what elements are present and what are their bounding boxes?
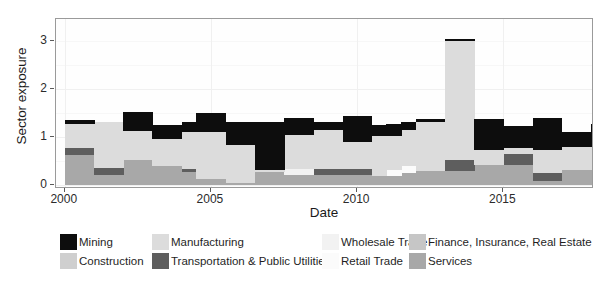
area-segment (313, 169, 328, 175)
area-segment (503, 165, 518, 185)
y-axis-tick-mark (50, 88, 54, 89)
area-segment (343, 169, 358, 175)
area-segment (401, 166, 416, 173)
area-segment (518, 165, 533, 185)
area-segment (343, 175, 358, 186)
area-segment (79, 155, 94, 185)
y-axis-tick-label: 0 (30, 177, 47, 191)
area-segment (460, 171, 475, 185)
area-segment (357, 169, 372, 175)
area-segment (518, 148, 533, 155)
area-segment (152, 166, 167, 185)
area-segment (65, 120, 80, 124)
area-segment (576, 147, 591, 170)
x-axis-tick-mark (210, 188, 211, 192)
area-segment (65, 155, 80, 185)
area-segment (255, 170, 270, 172)
area-segment (474, 150, 489, 164)
area-segment (313, 175, 328, 186)
area-segment (591, 146, 593, 159)
area-segment (474, 165, 489, 185)
area-segment (533, 118, 548, 150)
area-segment (167, 139, 182, 165)
gridline-horizontal-minor (56, 41, 592, 42)
area-segment (343, 142, 358, 168)
area-segment (152, 139, 167, 165)
gridline-horizontal (56, 185, 592, 186)
area-segment (299, 135, 314, 169)
area-segment (109, 168, 124, 175)
area-segment (328, 169, 343, 175)
area-segment (445, 39, 460, 41)
area-segment (123, 160, 138, 185)
area-segment (299, 175, 314, 186)
legend: MiningConstructionManufacturingTransport… (0, 232, 616, 280)
area-segment (460, 39, 475, 41)
area-segment (401, 122, 416, 131)
area-segment (562, 170, 577, 185)
area-segment (474, 119, 489, 150)
gridline-horizontal (56, 89, 592, 90)
legend-item[interactable]: Finance, Insurance, Real Estate (409, 232, 592, 252)
area-segment (65, 124, 80, 148)
area-segment (547, 181, 562, 185)
area-segment (547, 118, 562, 150)
area-segment (79, 124, 94, 148)
area-segment (416, 119, 431, 122)
legend-item[interactable]: Construction (60, 251, 144, 271)
x-axis-tick-label: 2010 (331, 192, 381, 206)
y-axis-tick-label: 1 (30, 129, 47, 143)
legend-item[interactable]: Mining (60, 232, 113, 252)
legend-swatch-icon (60, 234, 77, 250)
sector-exposure-chart: Sector exposure 0123 2000200520102015 Da… (0, 0, 616, 283)
legend-item[interactable]: Transportation & Public Utilities (152, 251, 330, 271)
legend-item[interactable]: Services (409, 251, 472, 271)
x-axis-title: Date (55, 205, 593, 220)
area-segment (533, 181, 548, 185)
area-segment (518, 154, 533, 165)
y-axis-tick-label: 2 (30, 81, 47, 95)
area-segment (65, 148, 80, 155)
area-segment (79, 148, 94, 155)
area-segment (152, 125, 167, 139)
legend-swatch-icon (60, 253, 77, 269)
legend-swatch-icon (409, 253, 426, 269)
legend-label: Services (428, 255, 472, 267)
area-segment (328, 122, 343, 131)
area-segment (386, 136, 401, 170)
x-axis-tick-mark (64, 188, 65, 192)
area-segment (430, 119, 445, 122)
area-segment (430, 122, 445, 171)
area-segment (357, 175, 372, 186)
area-segment (343, 116, 358, 142)
x-axis-tick-label: 2000 (39, 192, 89, 206)
area-segment (591, 170, 593, 185)
area-segment (138, 112, 153, 131)
area-segment (386, 124, 401, 136)
area-segment (240, 145, 255, 184)
area-segment (123, 131, 138, 160)
legend-item[interactable]: Retail Trade (322, 251, 403, 271)
area-segment (284, 135, 299, 169)
area-segment (445, 160, 460, 171)
y-axis-tick-mark (50, 40, 54, 41)
legend-label: Retail Trade (341, 255, 403, 267)
area-segment (416, 171, 431, 185)
area-segment (562, 147, 577, 170)
area-segment (313, 130, 328, 169)
legend-swatch-icon (322, 253, 339, 269)
area-segment (328, 175, 343, 186)
legend-label: Mining (79, 236, 113, 248)
area-segment (284, 175, 299, 186)
legend-label: Construction (79, 255, 144, 267)
area-segment (547, 173, 562, 182)
legend-swatch-icon (322, 234, 339, 250)
y-axis-title: Sector exposure (14, 0, 32, 196)
legend-item[interactable]: Manufacturing (152, 232, 244, 252)
area-segment (240, 122, 255, 145)
area-segment (123, 112, 138, 131)
legend-swatch-icon (152, 234, 169, 250)
x-axis-tick-label: 2015 (477, 192, 527, 206)
x-axis-tick-mark (502, 188, 503, 192)
area-segment (460, 41, 475, 160)
